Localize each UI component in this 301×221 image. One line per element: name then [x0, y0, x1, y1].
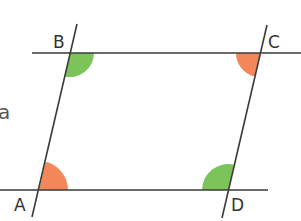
vertex-label-a: A [14, 195, 26, 215]
vertex-label-b: B [53, 32, 65, 52]
parallelogram-diagram: B C A D a [0, 0, 301, 221]
vertex-label-c: C [268, 32, 280, 52]
vertex-label-d: D [231, 195, 244, 215]
stray-text: a [0, 100, 10, 124]
